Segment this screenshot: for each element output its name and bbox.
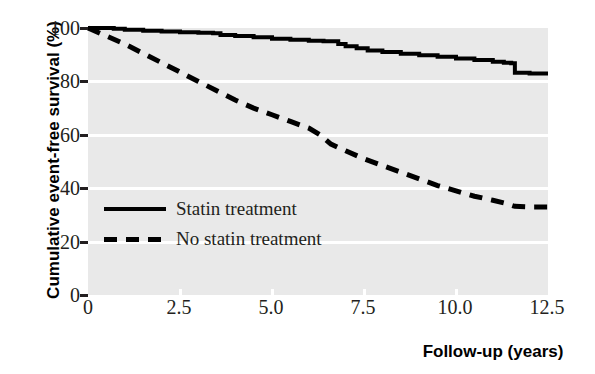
ytick-label-100: 100 [36,18,80,38]
legend-key-solid-icon [104,201,166,217]
xtick-label-12.5: 12.5 [512,297,582,317]
legend-label-statin: Statin treatment [176,198,297,220]
series-line-statin [88,28,548,73]
ytick-mark-80 [80,80,88,83]
legend-label-no-statin: No statin treatment [176,228,322,250]
ytick-label-60: 60 [36,125,80,145]
plot-area: Statin treatment No statin treatment [88,28,548,295]
ytick-mark-100 [80,27,88,30]
ytick-mark-40 [80,187,88,190]
legend-item-statin: Statin treatment [104,194,322,224]
ytick-label-80: 80 [36,71,80,91]
legend: Statin treatment No statin treatment [104,194,322,254]
x-axis-title: Follow-up (years) [398,342,588,362]
ytick-mark-60 [80,134,88,137]
xtick-label-10.0: 10.0 [420,297,490,317]
legend-item-no-statin: No statin treatment [104,224,322,254]
survival-curves [88,28,548,295]
ytick-label-20: 20 [36,232,80,252]
chart-figure: Cumulative event-free survival (%) Stati… [0,0,595,374]
series-line-no-statin [88,28,548,207]
xtick-label-0: 0 [53,297,123,317]
ytick-mark-20 [80,241,88,244]
xtick-label-2.5: 2.5 [144,297,214,317]
xtick-label-7.5: 7.5 [328,297,398,317]
y-axis-title: Cumulative event-free survival (%) [44,20,64,300]
ytick-label-40: 40 [36,178,80,198]
xtick-label-5.0: 5.0 [236,297,306,317]
legend-key-dashed-icon [104,231,166,247]
